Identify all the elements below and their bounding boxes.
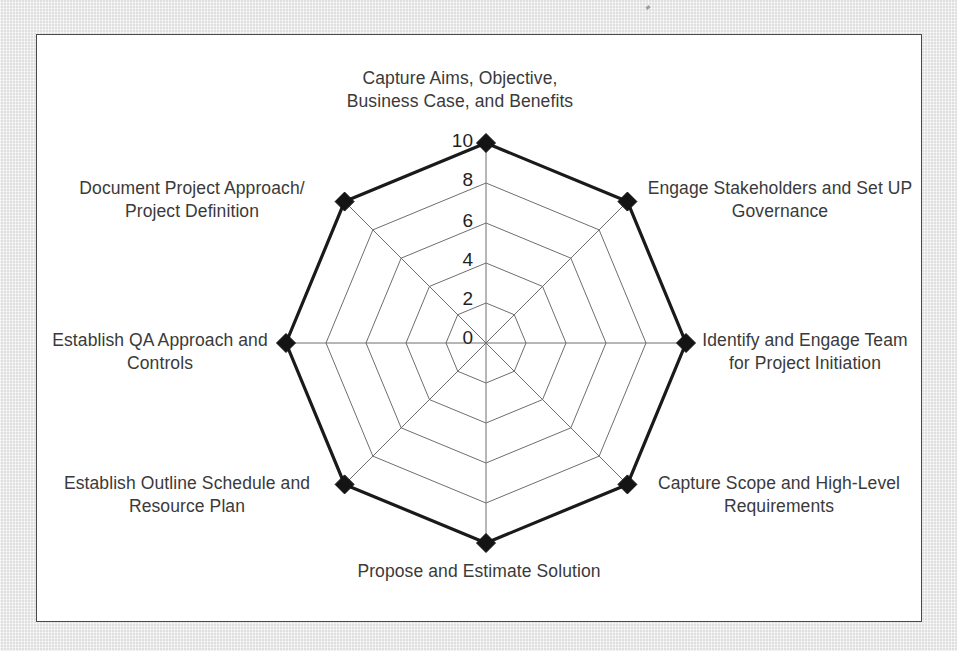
tick-label-0: 0 bbox=[411, 328, 473, 347]
data-point-marker bbox=[277, 334, 296, 353]
tick-label-8: 8 bbox=[411, 170, 473, 189]
tick-label-4: 4 bbox=[411, 250, 473, 269]
axis-label-capture-aims: Capture Aims, Objective, Business Case, … bbox=[250, 67, 670, 113]
axis-label-capture-scope: Capture Scope and High-Level Requirement… bbox=[635, 472, 922, 518]
axis-label-identify-engage-team: Identify and Engage Team for Project Ini… bbox=[687, 329, 922, 375]
tick-label-10: 10 bbox=[411, 131, 473, 150]
tick-label-6: 6 bbox=[411, 211, 473, 230]
axis-label-document-project-approach: Document Project Approach/ Project Defin… bbox=[51, 177, 333, 223]
tick-label-2: 2 bbox=[411, 289, 473, 308]
axis-label-engage-stakeholders: Engage Stakeholders and Set UP Governanc… bbox=[639, 177, 921, 223]
axis-label-establish-outline-schedule: Establish Outline Schedule and Resource … bbox=[43, 472, 331, 518]
axis-label-propose-estimate-solution: Propose and Estimate Solution bbox=[319, 560, 639, 583]
data-point-marker bbox=[477, 534, 496, 553]
radar-chart-panel: Capture Aims, Objective, Business Case, … bbox=[36, 34, 922, 622]
data-point-marker bbox=[477, 134, 496, 153]
axis-label-establish-qa-approach: Establish QA Approach and Controls bbox=[41, 329, 279, 375]
